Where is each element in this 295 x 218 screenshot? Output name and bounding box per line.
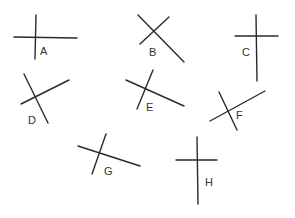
figure-c-line-2 xyxy=(256,15,257,81)
figure-f: F xyxy=(210,91,265,130)
figure-label: B xyxy=(149,46,156,58)
figure-label: D xyxy=(28,114,36,126)
figure-e: E xyxy=(126,70,184,113)
figure-label: C xyxy=(242,46,250,58)
figure-b: B xyxy=(138,15,184,62)
figure-h-line-2 xyxy=(197,137,198,204)
figure-label: G xyxy=(104,165,113,177)
figure-f-line-2 xyxy=(219,92,237,130)
figure-c: C xyxy=(235,15,278,81)
figure-a: A xyxy=(14,15,77,59)
figure-a-line-1 xyxy=(14,37,77,38)
figure-label: A xyxy=(40,45,48,57)
figure-g-line-1 xyxy=(78,146,140,166)
figure-label: F xyxy=(236,109,243,121)
figure-label: H xyxy=(205,176,213,188)
figure-a-line-2 xyxy=(35,15,36,59)
figure-label: E xyxy=(146,101,153,113)
figure-h: H xyxy=(176,137,217,204)
figure-d: D xyxy=(21,74,69,126)
figure-e-line-2 xyxy=(126,80,184,106)
figure-g: G xyxy=(78,134,140,177)
crossed-lines-diagram: ABCDEFGH xyxy=(0,0,295,218)
